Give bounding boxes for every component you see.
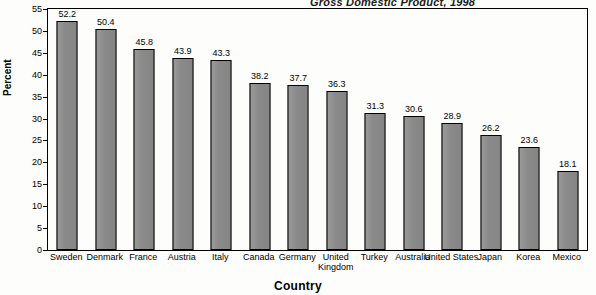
bar[interactable] [519,147,540,250]
bar[interactable] [365,113,386,250]
bar-value-label: 38.2 [251,71,269,81]
bar-slot: 18.1 [549,9,588,250]
y-tick-label: 55 [2,4,42,14]
y-tick-label: 25 [2,135,42,145]
bar[interactable] [57,21,78,250]
bar-slot: 43.3 [202,9,241,250]
bar-value-label: 50.4 [97,17,115,27]
bar-slot: 28.9 [433,9,472,250]
bar-slot: 43.9 [164,9,203,250]
bar-value-label: 43.3 [212,48,230,58]
bar-slot: 52.2 [48,9,87,250]
bar-slot: 50.4 [87,9,126,250]
bar-value-label: 37.7 [289,73,307,83]
bar-value-label: 45.8 [135,37,153,47]
y-tick-label: 10 [2,201,42,211]
bar-series: 52.250.445.843.943.338.237.736.331.330.6… [48,9,587,250]
y-tick-label: 40 [2,70,42,80]
plot-area: 52.250.445.843.943.338.237.736.331.330.6… [47,8,588,251]
y-tick-label: 30 [2,114,42,124]
bar[interactable] [249,83,270,250]
bar[interactable] [211,60,232,250]
bar-slot: 31.3 [356,9,395,250]
bar-value-label: 52.2 [58,9,76,19]
y-axis-ticks: 0510152025303540455055 [0,8,47,251]
bar[interactable] [557,171,578,250]
bar[interactable] [288,85,309,250]
bar-value-label: 30.6 [405,104,423,114]
y-tick-label: 15 [2,179,42,189]
bar-slot: 23.6 [510,9,549,250]
bar[interactable] [172,58,193,250]
bar-value-label: 28.9 [443,111,461,121]
y-tick-label: 45 [2,48,42,58]
bar[interactable] [403,116,424,250]
bar[interactable] [480,135,501,250]
x-axis-label: Country [0,279,596,293]
x-tick-label: Mexico [539,252,595,262]
bar-slot: 26.2 [472,9,511,250]
y-tick-label: 35 [2,92,42,102]
chart-title: Gross Domestic Product, 1998 [310,0,596,8]
bar-value-label: 36.3 [328,79,346,89]
bar-value-label: 26.2 [482,123,500,133]
y-tick-label: 20 [2,157,42,167]
bar-slot: 38.2 [241,9,280,250]
y-tick-label: 0 [2,245,42,255]
bar[interactable] [95,29,116,250]
bar-slot: 36.3 [318,9,357,250]
bar[interactable] [134,49,155,250]
bar-value-label: 43.9 [174,46,192,56]
bar-slot: 45.8 [125,9,164,250]
bar[interactable] [442,123,463,250]
y-tick-label: 50 [2,26,42,36]
bar-value-label: 31.3 [366,101,384,111]
chart-page: Gross Domestic Product, 1998 Percent 051… [0,0,596,295]
bar-value-label: 23.6 [520,135,538,145]
bar-value-label: 18.1 [559,159,577,169]
bar-slot: 30.6 [395,9,434,250]
bar-slot: 37.7 [279,9,318,250]
y-tick-label: 5 [2,223,42,233]
bar[interactable] [326,91,347,250]
